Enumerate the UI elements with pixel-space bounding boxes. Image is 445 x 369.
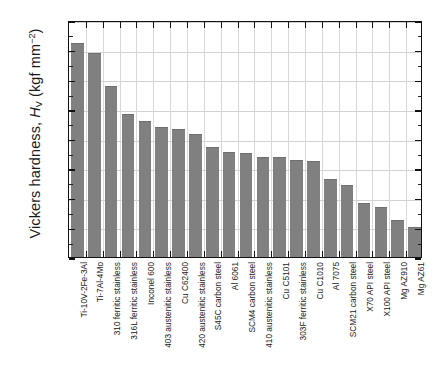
axis-tick-major bbox=[204, 251, 205, 257]
x-axis-tick-label: 410 austenitic stainless bbox=[265, 262, 274, 348]
x-axis-tick-label: Ti-10V-2Fe-3Al bbox=[80, 262, 89, 318]
axis-tick-major bbox=[415, 81, 421, 82]
bar bbox=[155, 127, 167, 257]
bar bbox=[172, 129, 184, 257]
bar bbox=[88, 53, 100, 257]
axis-tick-major bbox=[415, 258, 421, 259]
y-axis-unit-exponent: −2 bbox=[27, 33, 37, 43]
y-axis-symbol: H bbox=[27, 107, 43, 118]
axis-tick-minor bbox=[418, 96, 422, 97]
axis-tick-major bbox=[187, 251, 188, 257]
bar bbox=[375, 207, 387, 257]
axis-tick-major bbox=[69, 21, 75, 22]
bar bbox=[105, 86, 117, 257]
bar bbox=[223, 152, 235, 257]
axis-tick-major bbox=[271, 251, 272, 257]
axis-tick-major bbox=[406, 22, 407, 28]
axis-tick-major bbox=[322, 22, 323, 28]
bar bbox=[139, 121, 151, 257]
axis-tick-major bbox=[288, 251, 289, 257]
axis-tick-major bbox=[356, 22, 357, 28]
bar bbox=[341, 185, 353, 257]
axis-tick-major bbox=[120, 22, 121, 28]
axis-tick-major bbox=[69, 258, 75, 259]
x-axis-tick-label: 310 ferritic stainless bbox=[113, 262, 122, 335]
bar bbox=[290, 160, 302, 257]
bar bbox=[408, 227, 420, 257]
axis-tick-major bbox=[221, 22, 222, 28]
bar bbox=[358, 203, 370, 257]
axis-tick-minor bbox=[418, 184, 422, 185]
axis-tick-major bbox=[69, 51, 75, 52]
axis-tick-major bbox=[254, 251, 255, 257]
axis-tick-major bbox=[86, 22, 87, 28]
axis-tick-minor bbox=[418, 66, 422, 67]
axis-tick-minor bbox=[69, 184, 73, 185]
plot-area: 050100150200250300350400 bbox=[68, 21, 422, 258]
axis-tick-major bbox=[406, 251, 407, 257]
bar bbox=[324, 179, 336, 257]
bar bbox=[71, 43, 83, 257]
x-axis-tick-label: Al 7075 bbox=[332, 262, 341, 290]
axis-tick-major bbox=[103, 22, 104, 28]
x-axis-tick-label: X100 API steel bbox=[383, 262, 392, 316]
x-axis-tick-label: Ti-7Al-4Mo bbox=[96, 262, 105, 302]
bar bbox=[273, 157, 285, 257]
x-axis-tick-label: Cu C5101 bbox=[282, 262, 291, 299]
x-axis-tick-label: 316L ferritic stainless bbox=[130, 262, 139, 340]
x-axis-tick-label: Cu C62400 bbox=[181, 262, 190, 304]
y-axis-symbol-subscript: V bbox=[34, 101, 44, 107]
axis-tick-major bbox=[305, 22, 306, 28]
axis-tick-major bbox=[389, 22, 390, 28]
bar bbox=[307, 161, 319, 257]
axis-tick-major bbox=[187, 22, 188, 28]
axis-tick-major bbox=[153, 251, 154, 257]
y-axis-title-prefix: Vickers hardness, bbox=[27, 118, 43, 239]
axis-tick-minor bbox=[69, 125, 73, 126]
axis-tick-minor bbox=[69, 244, 73, 245]
axis-tick-minor bbox=[69, 66, 73, 67]
axis-tick-major bbox=[153, 22, 154, 28]
axis-tick-minor bbox=[69, 36, 73, 37]
x-axis-tick-label: SCM4 carbon steel bbox=[248, 262, 257, 333]
x-axis-tick-label: Mg AZ910 bbox=[400, 262, 409, 300]
axis-tick-major bbox=[415, 199, 421, 200]
y-axis-title: Vickers hardness, HV (kgf mm−2) bbox=[27, 9, 44, 259]
bar bbox=[206, 147, 218, 257]
axis-tick-major bbox=[389, 251, 390, 257]
bar bbox=[122, 114, 134, 257]
axis-tick-major bbox=[69, 110, 75, 111]
axis-tick-major bbox=[305, 251, 306, 257]
y-axis-unit-open: (kgf mm bbox=[27, 44, 43, 101]
x-axis-tick-label: Inconel 600 bbox=[147, 262, 156, 305]
x-axis-tick-label: 403 austenitic stainless bbox=[164, 262, 173, 348]
axis-tick-major bbox=[136, 22, 137, 28]
axis-tick-major bbox=[415, 140, 421, 141]
x-axis-tick-label: Mg AZ61 bbox=[417, 262, 426, 295]
axis-tick-major bbox=[170, 22, 171, 28]
axis-tick-minor bbox=[418, 214, 422, 215]
axis-tick-major bbox=[86, 251, 87, 257]
x-axis-tick-label: Al 6061 bbox=[231, 262, 240, 290]
axis-tick-major bbox=[170, 251, 171, 257]
bar bbox=[240, 153, 252, 257]
y-axis-unit-close: ) bbox=[27, 28, 43, 33]
axis-tick-major bbox=[69, 140, 75, 141]
axis-tick-major bbox=[288, 22, 289, 28]
bar bbox=[257, 157, 269, 257]
axis-tick-minor bbox=[69, 214, 73, 215]
x-axis-tick-label: 420 austenitic stainless bbox=[198, 262, 207, 348]
axis-tick-major bbox=[221, 251, 222, 257]
axis-tick-major bbox=[271, 22, 272, 28]
axis-tick-major bbox=[339, 251, 340, 257]
axis-tick-major bbox=[415, 229, 421, 230]
axis-tick-minor bbox=[418, 36, 422, 37]
axis-tick-major bbox=[415, 169, 421, 170]
axis-tick-major bbox=[103, 251, 104, 257]
axis-tick-major bbox=[204, 22, 205, 28]
axis-tick-major bbox=[322, 251, 323, 257]
axis-tick-major bbox=[238, 22, 239, 28]
axis-tick-major bbox=[415, 21, 421, 22]
x-axis-tick-label: 303F ferritic stainless bbox=[299, 262, 308, 340]
axis-tick-major bbox=[69, 169, 75, 170]
